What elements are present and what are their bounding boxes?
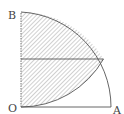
label-O: O <box>8 102 17 114</box>
quarter-circle-figure: B O A <box>0 0 124 114</box>
geometry-diagram: B O A <box>0 0 124 114</box>
label-A: A <box>112 104 122 114</box>
label-B: B <box>8 9 16 22</box>
shaded-region <box>21 12 104 107</box>
